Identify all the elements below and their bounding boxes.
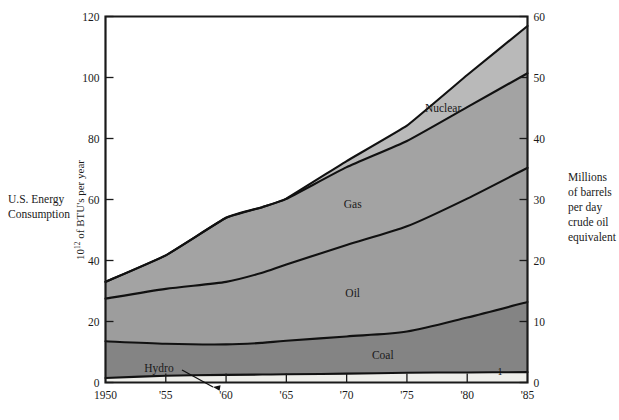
- y-axis-right-labels: 0102030405060: [534, 11, 546, 389]
- series-label-coal: Coal: [372, 349, 394, 361]
- series-label-nuclear: Nuclear: [425, 102, 462, 114]
- series-label-gas: Gas: [344, 198, 362, 210]
- stray-tick-mark: 1: [498, 366, 503, 377]
- x-tick-label: '70: [340, 389, 354, 401]
- y-tick-label-right: 20: [534, 255, 546, 267]
- right-caption-line-4: crude oil: [568, 216, 609, 228]
- y-tick-label-right: 10: [534, 316, 546, 328]
- left-axis-title-prefix: 10: [74, 248, 86, 260]
- svg-text:1012 of BTU's per year: 1012 of BTU's per year: [73, 160, 87, 260]
- area-chart: 020406080100120 0102030405060 1950'55'60…: [0, 0, 619, 420]
- left-caption: U.S. Energy Consumption: [8, 193, 70, 221]
- series-label-oil: Oil: [345, 287, 360, 299]
- right-caption-line-2: of barrels: [568, 186, 612, 198]
- right-caption-line-1: Millions: [568, 171, 608, 183]
- y-tick-label-right: 50: [534, 72, 546, 84]
- right-caption-line-5: equivalent: [568, 231, 617, 244]
- x-tick-label: 1950: [94, 389, 117, 401]
- y-tick-label-left: 0: [94, 377, 100, 389]
- left-caption-line-1: U.S. Energy: [8, 193, 65, 206]
- left-axis-title: 1012 of BTU's per year: [73, 160, 87, 260]
- figure-container: 020406080100120 0102030405060 1950'55'60…: [0, 0, 619, 420]
- x-tick-label: '65: [280, 389, 294, 401]
- x-tick-label: '60: [219, 389, 233, 401]
- y-tick-label-left: 20: [88, 316, 100, 328]
- y-tick-label-left: 40: [88, 255, 100, 267]
- x-tick-label: '85: [521, 389, 535, 401]
- y-tick-label-left: 120: [82, 11, 100, 23]
- y-tick-label-left: 60: [88, 194, 100, 206]
- y-tick-label-left: 80: [88, 133, 100, 145]
- y-tick-label-right: 60: [534, 11, 546, 23]
- y-tick-label-left: 100: [82, 72, 100, 84]
- y-tick-label-right: 30: [534, 194, 546, 206]
- band-fills: [106, 26, 528, 383]
- x-axis-labels: 1950'55'60'65'70'75'80'85: [94, 389, 535, 401]
- left-axis-title-suffix: of BTU's per year: [74, 160, 86, 242]
- x-tick-label: '55: [159, 389, 173, 401]
- left-caption-line-2: Consumption: [8, 208, 70, 221]
- x-tick-label: '80: [460, 389, 474, 401]
- hydro-callout-label: Hydro: [144, 362, 174, 375]
- y-tick-label-right: 40: [534, 133, 546, 145]
- right-caption: Millionsof barrelsper daycrude oilequiva…: [568, 171, 617, 244]
- y-tick-label-right: 0: [534, 377, 540, 389]
- x-tick-label: '75: [400, 389, 414, 401]
- right-caption-line-3: per day: [568, 201, 602, 214]
